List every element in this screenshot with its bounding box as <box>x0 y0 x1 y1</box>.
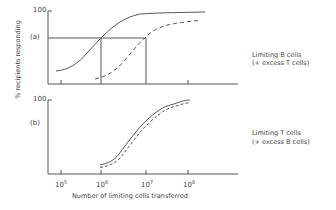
tick-exponent: 7 <box>150 179 153 185</box>
tick-base: 10 <box>96 181 105 189</box>
x-tick-label-1e7: 107 <box>141 178 153 190</box>
panel-a-solid-curve <box>56 12 205 71</box>
x-tick-label-1e5: 105 <box>55 178 67 190</box>
annotation-b-line1: Limiting T cells <box>252 129 301 138</box>
x-tick-label-1e8: 108 <box>183 178 195 190</box>
tick-base: 10 <box>183 181 192 189</box>
panel-a-y-tick-label: 100 <box>33 6 46 15</box>
panel-b-dashed-curve <box>100 103 190 168</box>
y-axis-label: % recipients responding <box>14 14 23 106</box>
chart-figure <box>0 0 336 210</box>
panel-a-label: (a) <box>30 33 40 42</box>
annotation-b-line2: (+ excess B cells) <box>252 138 310 147</box>
tick-exponent: 5 <box>64 179 67 185</box>
panel-b-label: (b) <box>30 119 40 128</box>
x-tick-label-1e6: 106 <box>96 178 108 190</box>
panel-b-solid-curve <box>100 100 190 165</box>
panel-a-reference-lines <box>48 38 146 84</box>
panel-a-axes <box>48 11 238 84</box>
tick-base: 10 <box>55 181 64 189</box>
tick-base: 10 <box>141 181 150 189</box>
tick-exponent: 6 <box>105 179 108 185</box>
tick-exponent: 8 <box>192 179 195 185</box>
x-axis-label: Number of limiting cells transferred <box>72 192 188 201</box>
panel-b-axes <box>48 100 238 174</box>
panel-b-y-tick-label: 100 <box>33 95 46 104</box>
annotation-a-line2: (+ excess T cells) <box>252 59 309 68</box>
